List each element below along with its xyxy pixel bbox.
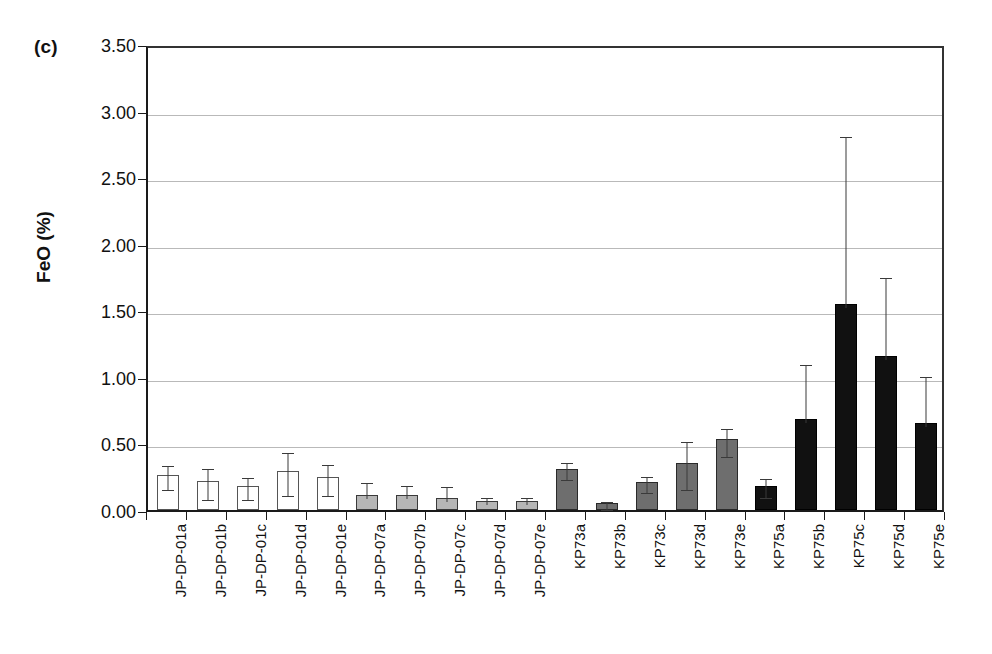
error-bar-cap-lower — [561, 480, 573, 481]
y-axis-tick-labels: 0.000.501.001.502.002.503.003.50 — [44, 0, 136, 520]
error-bar-cap-lower — [202, 500, 214, 501]
x-tick-label: JP-DP-07e — [531, 524, 548, 597]
x-tick-label: KP75c — [850, 524, 867, 568]
bar[interactable] — [835, 304, 857, 510]
error-bar-stem — [167, 466, 168, 491]
y-tick-label: 2.50 — [101, 169, 136, 190]
error-bar-cap-lower — [322, 496, 334, 497]
error-bar-cap-lower — [162, 490, 174, 491]
error-bar-cap-upper — [481, 498, 493, 499]
error-bar — [521, 498, 533, 505]
x-tick-label: KP73b — [611, 524, 628, 569]
bar-slot — [826, 48, 866, 510]
error-bar-cap-upper — [721, 429, 733, 430]
bar-slot — [747, 48, 787, 510]
error-bar — [481, 498, 493, 505]
plot-area — [146, 46, 944, 512]
error-bar — [721, 429, 733, 458]
error-bar-stem — [886, 278, 887, 359]
error-bar — [760, 479, 772, 499]
error-bar-cap-lower — [760, 498, 772, 499]
x-tick-label: KP75d — [890, 524, 907, 569]
figure-root: (c) FeO (%) 0.000.501.001.502.002.503.00… — [0, 0, 992, 654]
y-tick-mark — [138, 312, 146, 313]
bar-slot — [707, 48, 747, 510]
error-bar-stem — [207, 469, 208, 501]
x-tick-mark — [904, 512, 905, 520]
error-bar-stem — [766, 479, 767, 499]
bar-slot — [786, 48, 826, 510]
bar[interactable] — [915, 423, 937, 510]
x-tick-label: KP75b — [810, 524, 827, 569]
x-tick-mark — [385, 512, 386, 520]
bar-slot — [866, 48, 906, 510]
error-bar-cap-upper — [880, 278, 892, 279]
bar[interactable] — [875, 356, 897, 510]
error-bar-stem — [806, 365, 807, 424]
error-bar — [401, 486, 413, 499]
y-tick-mark — [138, 46, 146, 47]
error-bar-cap-upper — [840, 137, 852, 138]
error-bar — [322, 465, 334, 497]
error-bar-stem — [447, 487, 448, 502]
error-bar — [601, 502, 613, 511]
error-bar-stem — [407, 486, 408, 499]
error-bar — [920, 377, 932, 428]
error-bar-stem — [686, 442, 687, 491]
error-bar-cap-lower — [641, 493, 653, 494]
error-bar-stem — [726, 429, 727, 458]
error-bar-stem — [287, 453, 288, 497]
x-tick-label: KP75a — [770, 524, 787, 569]
bar-slot — [507, 48, 547, 510]
x-tick-label: JP-DP-07c — [451, 524, 468, 597]
x-tick-label: JP-DP-01b — [212, 524, 229, 597]
bar-series — [148, 48, 942, 510]
error-bar-stem — [327, 465, 328, 497]
y-tick-mark — [138, 445, 146, 446]
error-bar-cap-upper — [322, 465, 334, 466]
bar-slot — [587, 48, 627, 510]
x-tick-mark — [944, 512, 945, 520]
x-tick-mark — [186, 512, 187, 520]
error-bar-cap-upper — [282, 453, 294, 454]
y-tick-label: 3.00 — [101, 102, 136, 123]
y-tick-mark — [138, 246, 146, 247]
error-bar-cap-upper — [920, 377, 932, 378]
bar-slot — [228, 48, 268, 510]
error-bar-cap-upper — [800, 365, 812, 366]
x-tick-label: JP-DP-07d — [491, 524, 508, 597]
y-tick-label: 0.00 — [101, 502, 136, 523]
x-tick-label: JP-DP-07b — [411, 524, 428, 597]
error-bar-cap-upper — [202, 469, 214, 470]
bar-slot — [547, 48, 587, 510]
error-bar-cap-upper — [242, 478, 254, 479]
error-bar-stem — [846, 137, 847, 307]
x-tick-mark — [665, 512, 666, 520]
y-tick-label: 1.00 — [101, 368, 136, 389]
error-bar — [641, 477, 653, 494]
y-tick-label: 3.50 — [101, 36, 136, 57]
error-bar — [162, 466, 174, 491]
y-tick-mark — [138, 512, 146, 513]
bar-slot — [148, 48, 188, 510]
error-bar-cap-lower — [242, 500, 254, 501]
y-tick-mark — [138, 379, 146, 380]
error-bar — [880, 278, 892, 359]
error-bar-cap-upper — [441, 487, 453, 488]
y-tick-label: 0.50 — [101, 435, 136, 456]
error-bar — [681, 442, 693, 491]
error-bar — [561, 463, 573, 480]
error-bar-cap-upper — [162, 466, 174, 467]
error-bar-cap-upper — [601, 502, 613, 503]
error-bar — [242, 478, 254, 501]
x-tick-mark — [625, 512, 626, 520]
error-bar — [361, 483, 373, 499]
error-bar — [840, 137, 852, 307]
bar[interactable] — [795, 419, 817, 510]
x-tick-mark — [745, 512, 746, 520]
x-tick-label: KP73e — [731, 524, 748, 569]
y-tick-mark — [138, 113, 146, 114]
error-bar-cap-upper — [521, 498, 533, 499]
error-bar — [441, 487, 453, 502]
error-bar — [282, 453, 294, 497]
